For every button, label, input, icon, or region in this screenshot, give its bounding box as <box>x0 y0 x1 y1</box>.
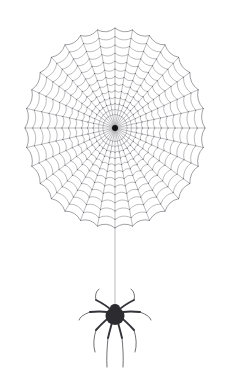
web-node <box>65 90 66 91</box>
web-node <box>84 113 85 114</box>
web-node <box>197 128 198 129</box>
web-node <box>147 135 148 136</box>
web-node <box>126 193 127 194</box>
web-node <box>140 58 141 59</box>
web-radial-thread <box>115 57 179 128</box>
web-node <box>100 209 101 210</box>
web-node <box>47 128 48 129</box>
web-node <box>82 164 83 165</box>
web-node <box>51 198 52 199</box>
web-node <box>72 175 73 176</box>
web-node <box>153 99 154 100</box>
web-node <box>148 128 149 129</box>
web-node <box>134 106 135 107</box>
web-node <box>121 91 122 92</box>
web-node <box>76 119 77 120</box>
web-node <box>171 86 172 87</box>
web-node <box>115 179 116 180</box>
web-node <box>142 134 143 135</box>
web-node <box>156 197 157 198</box>
web-node <box>130 145 131 146</box>
web-node <box>140 85 141 86</box>
web-node <box>96 97 97 98</box>
web-node <box>121 164 122 165</box>
web-node <box>189 72 190 73</box>
web-node <box>144 78 145 79</box>
artwork-title: Spider Web With Hanging Spider <box>0 0 1 1</box>
web-node <box>184 159 185 160</box>
web-node <box>94 137 95 138</box>
web-node <box>161 128 162 129</box>
web-node <box>96 159 97 160</box>
web-node <box>131 38 132 39</box>
web-node <box>39 163 40 164</box>
web-node <box>122 84 123 85</box>
web-node <box>167 139 168 140</box>
web-node <box>138 189 139 190</box>
web-node <box>86 159 87 160</box>
web-node <box>101 54 102 55</box>
web-node <box>178 57 179 58</box>
web-node <box>77 190 78 191</box>
web-node <box>140 116 141 117</box>
web-node <box>154 128 155 129</box>
web-node <box>115 53 116 54</box>
web-node <box>99 102 100 103</box>
web-node <box>95 106 96 107</box>
web-node <box>52 99 53 100</box>
web-node <box>130 87 131 88</box>
web-node <box>109 98 110 99</box>
web-node <box>189 128 190 129</box>
web-node <box>134 149 135 150</box>
web-node <box>183 77 184 78</box>
web-node <box>78 111 79 112</box>
web-node <box>122 171 123 172</box>
web-node <box>115 202 116 203</box>
web-node <box>72 80 73 81</box>
leg-third-left-tibia <box>94 330 96 352</box>
web-node <box>104 156 105 157</box>
web-node <box>146 43 147 44</box>
web-node <box>146 142 147 143</box>
web-node <box>82 91 83 92</box>
web-node <box>119 151 120 152</box>
web-node <box>164 105 165 106</box>
web-node <box>151 144 152 145</box>
web-node <box>85 78 86 79</box>
web-node <box>162 75 163 76</box>
web-node <box>165 165 166 166</box>
web-node <box>46 77 47 78</box>
web-node <box>89 139 90 140</box>
web-node <box>106 150 107 151</box>
web-node <box>41 144 42 145</box>
web-node <box>137 145 138 146</box>
web-node <box>96 141 97 142</box>
web-node <box>59 102 60 103</box>
web-node <box>157 175 158 176</box>
web-node <box>40 128 41 129</box>
web-node <box>77 169 78 170</box>
web-node <box>97 29 98 30</box>
web-node <box>125 156 126 157</box>
leg-hind-right-tibia <box>122 338 123 367</box>
web-node <box>132 175 133 176</box>
web-node <box>147 164 148 165</box>
web-node <box>102 162 103 163</box>
web-node <box>104 99 105 100</box>
web-node <box>160 118 161 119</box>
web-node <box>164 150 165 151</box>
web-node <box>80 220 81 221</box>
web-node <box>115 97 116 98</box>
web-node <box>65 165 66 166</box>
orb-web <box>25 28 206 229</box>
web-node <box>177 81 178 82</box>
web-node <box>140 139 141 140</box>
web-node <box>86 96 87 97</box>
web-node <box>93 128 94 129</box>
web-node <box>89 197 90 198</box>
web-node <box>70 160 71 161</box>
web-node <box>87 128 88 129</box>
web-node <box>115 211 116 212</box>
web-node <box>148 72 149 73</box>
web-node <box>156 59 157 60</box>
